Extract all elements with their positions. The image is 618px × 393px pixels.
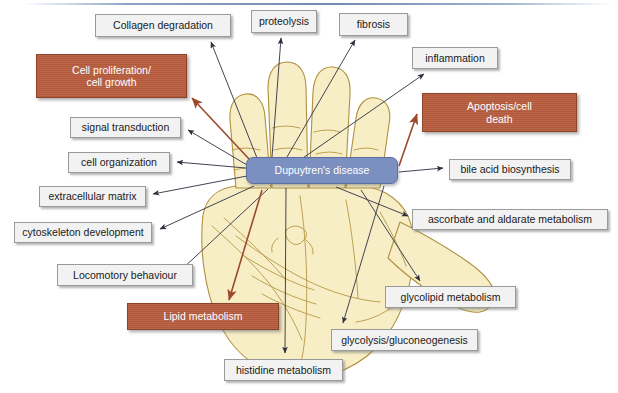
node-label: bile acid biosynthesis [460, 163, 559, 175]
node-cytoskeleton[interactable]: cytoskeleton development [14, 222, 152, 243]
node-collagen-degradation[interactable]: Collagen degradation [95, 14, 231, 37]
node-label: inflammation [425, 52, 485, 64]
node-label: Dupuytren's disease [275, 164, 370, 176]
node-dupuytrens-disease[interactable]: Dupuytren's disease [246, 157, 398, 184]
node-glycolysis-gluconeo[interactable]: glycolysis/gluconeogenesis [331, 329, 478, 351]
node-glycolipid-metabolism[interactable]: glycolipid metabolism [385, 286, 516, 308]
node-layer: Collagen degradationproteolysisfibrosisi… [0, 0, 618, 393]
node-fibrosis[interactable]: fibrosis [339, 13, 408, 36]
node-label: cytoskeleton development [22, 226, 143, 238]
node-proteolysis[interactable]: proteolysis [251, 10, 317, 33]
node-cell-organization[interactable]: cell organization [68, 152, 170, 173]
node-label: Lipid metabolism [164, 310, 243, 322]
node-ascorbate-aldarate[interactable]: ascorbate and aldarate metabolism [412, 209, 608, 230]
node-label: cell organization [81, 156, 157, 168]
node-label: Locomotory behaviour [73, 269, 177, 281]
node-bile-acid-biosynthesis[interactable]: bile acid biosynthesis [449, 159, 571, 180]
node-locomotory-behaviour[interactable]: Locomotory behaviour [57, 264, 193, 286]
node-label: Collagen degradation [113, 19, 213, 31]
node-label: histidine metabolism [236, 364, 331, 376]
node-histidine-metabolism[interactable]: histidine metabolism [224, 359, 343, 381]
node-label: ascorbate and aldarate metabolism [428, 213, 592, 225]
node-signal-transduction[interactable]: signal transduction [70, 117, 181, 138]
node-label: proteolysis [259, 15, 309, 27]
node-label: Apoptosis/celldeath [467, 100, 532, 125]
node-label: glycolipid metabolism [401, 291, 501, 303]
node-label: Cell proliferation/cell growth [72, 64, 151, 89]
node-apoptosis[interactable]: Apoptosis/celldeath [422, 93, 577, 132]
node-label: fibrosis [357, 18, 390, 30]
node-label: signal transduction [82, 121, 170, 133]
node-cell-proliferation[interactable]: Cell proliferation/cell growth [36, 54, 187, 98]
node-lipid-metabolism[interactable]: Lipid metabolism [127, 303, 279, 330]
node-extracellular-matrix[interactable]: extracellular matrix [39, 186, 146, 207]
node-label: extracellular matrix [48, 190, 136, 202]
node-inflammation[interactable]: inflammation [412, 47, 498, 69]
diagram-canvas: Collagen degradationproteolysisfibrosisi… [0, 0, 618, 393]
node-label: glycolysis/gluconeogenesis [341, 334, 468, 346]
